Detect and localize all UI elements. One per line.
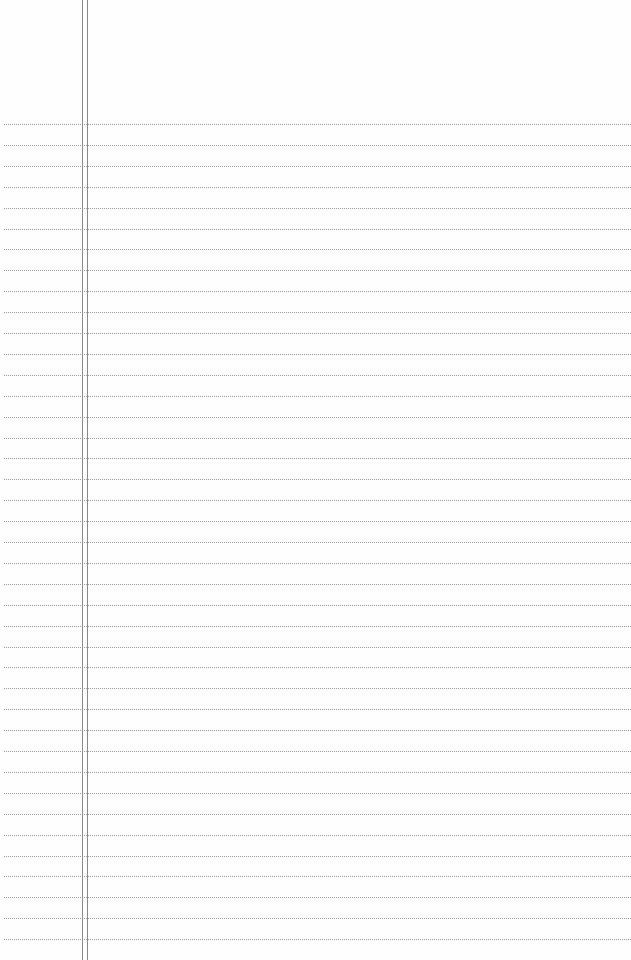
ruled-line bbox=[4, 688, 631, 689]
ruled-line bbox=[4, 793, 631, 794]
ruled-line bbox=[4, 730, 631, 731]
margin-line bbox=[87, 0, 88, 960]
ruled-line bbox=[4, 375, 631, 376]
ruled-line bbox=[4, 291, 631, 292]
ruled-line bbox=[4, 396, 631, 397]
ruled-line bbox=[4, 124, 631, 125]
ruled-line bbox=[4, 187, 631, 188]
ruled-line bbox=[4, 897, 631, 898]
ruled-line bbox=[4, 270, 631, 271]
ruled-line bbox=[4, 939, 631, 940]
ruled-line bbox=[4, 709, 631, 710]
ruled-line bbox=[4, 751, 631, 752]
ruled-line bbox=[4, 876, 631, 877]
ruled-line bbox=[4, 772, 631, 773]
lined-paper bbox=[0, 0, 631, 960]
ruled-line bbox=[4, 667, 631, 668]
ruled-line bbox=[4, 249, 631, 250]
ruled-line bbox=[4, 626, 631, 627]
ruled-line bbox=[4, 605, 631, 606]
ruled-line bbox=[4, 145, 631, 146]
ruled-line bbox=[4, 312, 631, 313]
ruled-line bbox=[4, 542, 631, 543]
ruled-line bbox=[4, 563, 631, 564]
ruled-line bbox=[4, 584, 631, 585]
ruled-line bbox=[4, 856, 631, 857]
ruled-line bbox=[4, 918, 631, 919]
ruled-line bbox=[4, 166, 631, 167]
ruled-line bbox=[4, 521, 631, 522]
ruled-line bbox=[4, 458, 631, 459]
ruled-line bbox=[4, 333, 631, 334]
ruled-line bbox=[4, 417, 631, 418]
ruled-line bbox=[4, 229, 631, 230]
ruled-line bbox=[4, 438, 631, 439]
ruled-line bbox=[4, 814, 631, 815]
ruled-line bbox=[4, 208, 631, 209]
ruled-line bbox=[4, 647, 631, 648]
ruled-line bbox=[4, 835, 631, 836]
ruled-line bbox=[4, 354, 631, 355]
margin-line bbox=[82, 0, 83, 960]
ruled-line bbox=[4, 500, 631, 501]
ruled-line bbox=[4, 479, 631, 480]
